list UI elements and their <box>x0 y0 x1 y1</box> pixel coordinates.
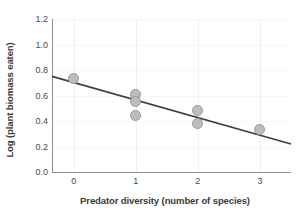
x-axis-line <box>52 172 291 173</box>
y-tick-label: 0.2 <box>35 142 48 152</box>
regression-trendline <box>52 19 291 172</box>
x-tick-label: 3 <box>257 176 262 186</box>
y-tick-label: 0.4 <box>35 116 48 126</box>
chart-figure: Log (plant biomass eaten) 0.00.20.40.60.… <box>0 0 296 218</box>
y-tick-label: 0.0 <box>35 167 48 177</box>
x-tick-label: 2 <box>195 176 200 186</box>
y-tick-label: 1.0 <box>35 40 48 50</box>
y-tick-label: 0.6 <box>35 91 48 101</box>
x-tick-label: 0 <box>71 176 76 186</box>
plot-area: 0.00.20.40.60.81.01.2 0123 <box>52 19 291 172</box>
y-tick-label: 0.8 <box>35 65 48 75</box>
x-tick-label: 1 <box>133 176 138 186</box>
x-axis-title: Predator diversity (number of species) <box>40 195 290 206</box>
y-tick-label: 1.2 <box>35 14 48 24</box>
y-axis-title: Log (plant biomass eaten) <box>0 2 18 198</box>
